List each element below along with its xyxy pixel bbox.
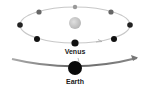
venus-position-left (17, 22, 23, 28)
venus-position-upper-right (108, 9, 113, 14)
earth-icon (68, 61, 82, 75)
earth-label: Earth (55, 78, 95, 85)
sun-icon (69, 17, 81, 29)
venus-position-upper-left (36, 9, 41, 14)
venus-position-top (73, 5, 77, 9)
earth-pointer-line (78, 58, 79, 62)
venus-phases-diagram (0, 0, 143, 90)
venus-position-bottom (71, 39, 78, 46)
venus-position-lower-left (34, 36, 40, 42)
venus-position-lower-right (111, 36, 117, 42)
venus-label: Venus (55, 48, 95, 55)
venus-position-right (127, 22, 133, 28)
